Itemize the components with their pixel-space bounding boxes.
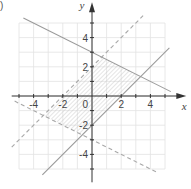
x-tick-label: -2 — [58, 99, 67, 110]
y-tick-label: -2 — [79, 120, 88, 131]
origin-label: 0 — [82, 99, 88, 110]
y-tick-label: 2 — [82, 62, 88, 73]
y-axis-label: y — [79, 0, 85, 11]
y-axis-arrow-icon — [89, 2, 95, 12]
x-axis-label: x — [181, 100, 187, 112]
y-tick-label: -4 — [79, 149, 88, 160]
y-tick-label: 4 — [82, 33, 88, 44]
x-axis-arrow-icon — [176, 93, 186, 99]
x-tick-label: 2 — [118, 99, 124, 110]
coordinate-plane: -4-224042-2-4xy — [0, 0, 191, 189]
x-tick-label: 4 — [148, 99, 154, 110]
x-tick-label: -4 — [29, 99, 38, 110]
